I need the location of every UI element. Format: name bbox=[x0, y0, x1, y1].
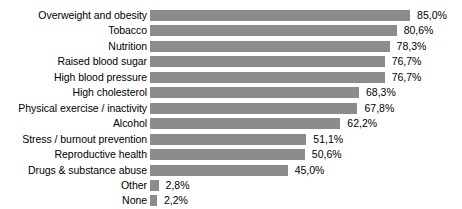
bar-value-label: 67,8% bbox=[364, 102, 394, 115]
bar-row: High cholesterol68,3% bbox=[0, 86, 462, 99]
bar-row: Raised blood sugar76,7% bbox=[0, 55, 462, 68]
bar-category-label: Tobacco bbox=[0, 24, 147, 37]
bar-value-label: 2,8% bbox=[166, 179, 190, 192]
bar bbox=[150, 165, 288, 176]
bar-value-label: 45,0% bbox=[295, 164, 325, 177]
bar-row: High blood pressure76,7% bbox=[0, 71, 462, 84]
bar-value-label: 85,0% bbox=[417, 9, 447, 22]
bar-row: Other2,8% bbox=[0, 179, 462, 192]
bar-value-label: 68,3% bbox=[366, 86, 396, 99]
bar-value-label: 50,6% bbox=[312, 148, 342, 161]
bar bbox=[150, 134, 306, 145]
bar-row: Tobacco80,6% bbox=[0, 24, 462, 37]
bar-category-label: High blood pressure bbox=[0, 71, 147, 84]
bar bbox=[150, 25, 397, 36]
bar-category-label: Reproductive health bbox=[0, 148, 147, 161]
bar bbox=[150, 87, 359, 98]
bar-category-label: Raised blood sugar bbox=[0, 55, 147, 68]
bar-value-label: 51,1% bbox=[313, 133, 343, 146]
bar-category-label: Alcohol bbox=[0, 117, 147, 130]
bar-row: Overweight and obesity85,0% bbox=[0, 9, 462, 22]
bar bbox=[150, 10, 410, 21]
bar-value-label: 76,7% bbox=[392, 71, 422, 84]
bar-category-label: Other bbox=[0, 179, 147, 192]
horizontal-bar-chart: Overweight and obesity85,0%Tobacco80,6%N… bbox=[0, 0, 462, 209]
bar-row: Nutrition78,3% bbox=[0, 40, 462, 53]
bar-row: Stress / burnout prevention51,1% bbox=[0, 133, 462, 146]
bar-row: Reproductive health50,6% bbox=[0, 148, 462, 161]
bar bbox=[150, 41, 390, 52]
bar-category-label: Overweight and obesity bbox=[0, 9, 147, 22]
bar bbox=[150, 118, 340, 129]
bar-row: None2,2% bbox=[0, 194, 462, 207]
bar-category-label: None bbox=[0, 194, 147, 207]
bar-row: Drugs & substance abuse45,0% bbox=[0, 164, 462, 177]
bar bbox=[150, 103, 357, 114]
bar bbox=[150, 56, 385, 67]
bar bbox=[150, 195, 157, 206]
bar bbox=[150, 149, 305, 160]
bar-value-label: 80,6% bbox=[404, 24, 434, 37]
bar-value-label: 76,7% bbox=[392, 55, 422, 68]
bar-value-label: 78,3% bbox=[397, 40, 427, 53]
bar bbox=[150, 72, 385, 83]
bar-row: Alcohol62,2% bbox=[0, 117, 462, 130]
bar-value-label: 2,2% bbox=[164, 194, 188, 207]
bar-value-label: 62,2% bbox=[347, 117, 377, 130]
bar-category-label: High cholesterol bbox=[0, 86, 147, 99]
bar bbox=[150, 180, 159, 191]
bar-category-label: Stress / burnout prevention bbox=[0, 133, 147, 146]
bar-row: Physical exercise / inactivity67,8% bbox=[0, 102, 462, 115]
bar-category-label: Nutrition bbox=[0, 40, 147, 53]
bar-category-label: Physical exercise / inactivity bbox=[0, 102, 147, 115]
bar-category-label: Drugs & substance abuse bbox=[0, 164, 147, 177]
